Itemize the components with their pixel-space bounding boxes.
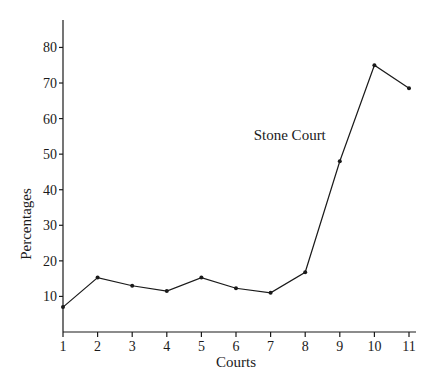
x-tick-label: 1 xyxy=(60,339,67,354)
y-tick-label: 40 xyxy=(43,183,57,198)
line-chart: 1020304050607080 1234567891011 Stone Cou… xyxy=(0,0,434,386)
y-tick-label: 20 xyxy=(43,254,57,269)
x-tick-label: 6 xyxy=(233,339,240,354)
x-tick-label: 2 xyxy=(94,339,101,354)
data-point xyxy=(96,276,100,280)
x-tick-label: 7 xyxy=(267,339,274,354)
annotation-label: Stone Court xyxy=(254,127,327,143)
x-tick-label: 9 xyxy=(336,339,343,354)
y-tick-label: 80 xyxy=(43,40,57,55)
y-tick-label: 30 xyxy=(43,218,57,233)
data-point xyxy=(372,63,376,67)
data-point xyxy=(165,289,169,293)
data-point xyxy=(303,270,307,274)
x-axis-title: Courts xyxy=(216,354,256,370)
data-point xyxy=(269,291,273,295)
x-tick-label: 3 xyxy=(129,339,136,354)
y-tick-label: 50 xyxy=(43,147,57,162)
data-point xyxy=(61,305,65,309)
annotations: Stone Court xyxy=(254,127,327,143)
y-tick-label: 70 xyxy=(43,76,57,91)
x-tick-label: 11 xyxy=(402,339,415,354)
y-axis: 1020304050607080 xyxy=(43,20,63,332)
data-point xyxy=(407,86,411,90)
data-point xyxy=(199,276,203,280)
data-series xyxy=(61,63,411,309)
y-tick-label: 60 xyxy=(43,112,57,127)
x-tick-label: 4 xyxy=(163,339,170,354)
y-tick-label: 10 xyxy=(43,289,57,304)
x-tick-label: 10 xyxy=(367,339,381,354)
y-axis-title: Percentages xyxy=(18,188,34,260)
data-point xyxy=(234,286,238,290)
data-point xyxy=(338,159,342,163)
x-tick-label: 8 xyxy=(302,339,309,354)
series-line xyxy=(63,65,409,307)
x-axis: 1234567891011 xyxy=(60,332,417,354)
data-point xyxy=(130,284,134,288)
x-tick-label: 5 xyxy=(198,339,205,354)
